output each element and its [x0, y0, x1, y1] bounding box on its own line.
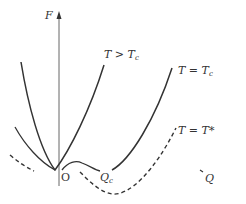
curve-t-greater-tc — [21, 62, 104, 170]
arrow-up-icon — [57, 11, 62, 19]
curve-t-equal-tc-right — [112, 68, 172, 170]
curve-left-solid — [15, 127, 55, 170]
curve-t-equal-tstar-right — [80, 128, 176, 194]
label-t-equal-tstar: T = T* — [178, 124, 215, 137]
x-axis-label: Q — [205, 172, 214, 185]
curve-t-equal-tc — [62, 162, 100, 171]
label-t-greater-tc: T > Tc — [104, 48, 139, 62]
y-axis-label: F — [44, 9, 53, 22]
label-t-equal-tc: T = Tc — [178, 64, 213, 78]
curve-t-equal-tstar-left — [10, 155, 34, 171]
origin-label: O — [61, 171, 70, 184]
y-axis — [57, 11, 62, 186]
label-qc: Qc — [100, 171, 113, 185]
q-axis-tick — [200, 170, 203, 172]
phase-transition-diagram: F T > Tc T = Tc T = T* O Qc Q — [0, 0, 246, 204]
